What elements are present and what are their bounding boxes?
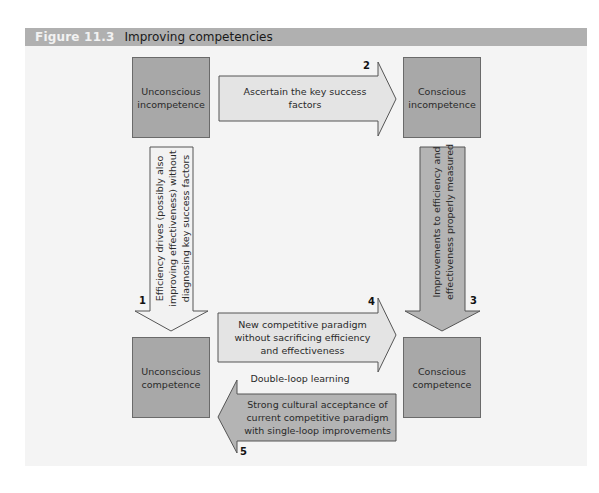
arrow-3-label: Improvements to efficiency and effective…	[430, 142, 456, 302]
box-unconscious-competence: Unconscious competence	[132, 337, 210, 418]
box-label: Unconscious competence	[133, 365, 209, 391]
arrow-4-number: 4	[368, 296, 375, 307]
arrow-4-label: New competitive paradigm without sacrifi…	[230, 318, 375, 357]
box-label: Conscious incompetence	[404, 85, 480, 111]
arrow-5-label: Strong cultural acceptance of current co…	[240, 398, 395, 437]
box-label: Unconscious incompetence	[133, 85, 209, 111]
arrow-2-number: 2	[363, 60, 370, 71]
box-conscious-competence: Conscious competence	[403, 337, 481, 418]
arrow-1-label: Efficiency drives (possibly also improvi…	[153, 149, 192, 309]
arrow-2-label: Ascertain the key success factors	[235, 85, 375, 111]
box-label: Conscious competence	[404, 365, 480, 391]
box-conscious-incompetence: Conscious incompetence	[403, 57, 481, 138]
double-loop-label: Double-loop learning	[230, 372, 370, 385]
arrow-5-number: 5	[240, 446, 247, 457]
box-unconscious-incompetence: Unconscious incompetence	[132, 57, 210, 138]
arrow-1-number: 1	[139, 295, 146, 306]
arrow-3-number: 3	[470, 295, 477, 306]
